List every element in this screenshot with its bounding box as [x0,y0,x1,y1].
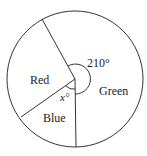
green-angle-label: 210° [87,56,110,70]
blue-angle-label: x° [59,91,70,103]
sector-label-green: Green [99,84,128,98]
sector-label-red: Red [30,73,49,87]
angle-arc-blue [66,86,75,89]
radius-blue-green [75,79,76,147]
sector-label-blue: Blue [43,111,66,125]
radius-red-green [42,19,75,79]
pie-diagram: 210° x° Red Blue Green [0,0,147,156]
